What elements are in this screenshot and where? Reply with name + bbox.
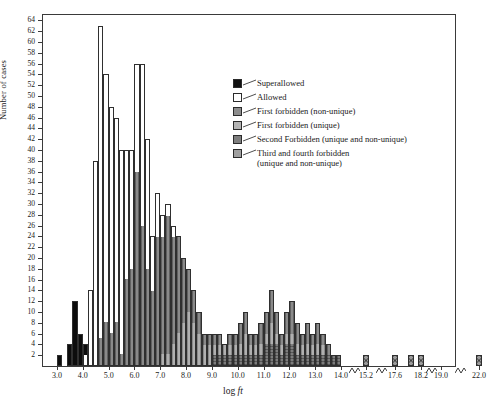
bar-segment-allowed: [110, 108, 113, 333]
bar-segment-first-uniq: [259, 344, 262, 354]
legend-swatch-second: [233, 135, 242, 144]
legend-label: Allowed: [257, 92, 287, 102]
bar-segment-first-uniq: [208, 345, 211, 365]
bar-segment-first-uniq: [223, 345, 226, 355]
bar-segment-first-nonuniq: [130, 269, 133, 365]
bar-segment-first-uniq: [177, 333, 180, 365]
bar-segment-first-nonuniq: [166, 216, 169, 355]
bar-segment-superallowed: [58, 356, 61, 365]
bar-segment-first-nonuniq: [228, 335, 231, 345]
x-axis-label-prefix: log: [223, 386, 238, 396]
bar-segment-second: [259, 355, 262, 365]
legend-label: Superallowed: [257, 78, 304, 88]
y-tick-mark: [38, 53, 42, 54]
bar-segment-first-nonuniq: [156, 237, 159, 365]
y-tick-mark: [38, 226, 42, 227]
bar-segment-allowed: [166, 205, 169, 216]
legend-swatch-first-nonuniq: [233, 107, 242, 116]
bar-segment-first-nonuniq: [285, 313, 288, 334]
bar-segment-first-uniq: [218, 345, 221, 355]
bar-segment-first-nonuniq: [203, 335, 206, 345]
y-tick-label: 6: [13, 330, 35, 337]
legend-label-line2: (unique and non-unique): [257, 158, 342, 168]
y-tick-label: 64: [13, 16, 35, 23]
y-tick-label: 58: [13, 49, 35, 56]
legend-item: Allowed: [233, 92, 461, 106]
bar-segment-first-nonuniq: [192, 291, 195, 323]
y-tick-mark: [38, 290, 42, 291]
bar-segment-first-nonuniq: [161, 237, 164, 354]
y-tick-label: 46: [13, 114, 35, 121]
y-tick-label: 54: [13, 70, 35, 77]
bar-segment-second: [301, 355, 304, 365]
bar-segment-second: [285, 344, 288, 365]
bar-segment-first-uniq: [280, 345, 283, 355]
x-tick-mark: [264, 366, 265, 370]
y-tick-mark: [38, 269, 42, 270]
legend-swatch-superallowed: [233, 79, 242, 88]
y-tick-label: 4: [13, 340, 35, 347]
x-tick-mark: [479, 366, 480, 370]
x-tick-label: 19.0: [424, 371, 458, 380]
y-axis-label: Number of cases: [0, 0, 8, 120]
bar-segment-second: [275, 344, 278, 365]
bar-segment-first-uniq: [197, 334, 200, 365]
x-tick-label: 22.0: [462, 371, 491, 380]
bar-segment-allowed: [94, 162, 97, 365]
x-axis-label: log ft: [0, 386, 466, 396]
bar-segment-allowed: [84, 355, 87, 365]
bar-segment-first-nonuniq: [301, 335, 304, 345]
legend-label: Third and fourth forbidden: [257, 148, 349, 158]
bar-segment-first-uniq: [270, 323, 273, 344]
x-tick-mark: [366, 366, 367, 370]
y-tick-mark: [38, 334, 42, 335]
y-tick-label: 60: [13, 38, 35, 45]
y-tick-mark: [38, 96, 42, 97]
y-tick-label: 44: [13, 124, 35, 131]
bar-segment-first-nonuniq: [311, 335, 314, 345]
axis-break-mark: [376, 360, 387, 367]
bar-segment-allowed: [141, 65, 144, 226]
bar-segment-second: [270, 344, 273, 365]
y-tick-label: 2: [13, 351, 35, 358]
bar-segment-first-nonuniq: [208, 335, 211, 345]
bar-segment-first-nonuniq: [270, 291, 273, 323]
x-tick-mark: [160, 366, 161, 370]
bar-segment-first-nonuniq: [115, 322, 118, 365]
axis-break-mark: [349, 360, 360, 367]
bar-segment-first-uniq: [161, 354, 164, 365]
legend-leader-line: [242, 79, 258, 88]
bar-segment-first-uniq: [244, 334, 247, 355]
legend-leader-line: [242, 93, 258, 102]
y-tick-mark: [38, 31, 42, 32]
bar-segment-second: [321, 355, 324, 365]
bar-segment-allowed: [130, 151, 133, 269]
bar-segment-first-nonuniq: [249, 335, 252, 345]
histogram-bar: [57, 355, 62, 366]
bar-segment-allowed: [135, 65, 138, 172]
bar-segment-first-uniq: [290, 334, 293, 344]
legend-item: Superallowed: [233, 78, 461, 92]
bar-segment-first-uniq: [239, 344, 242, 354]
bar-segment-second: [296, 355, 299, 365]
legend-swatch-allowed: [233, 93, 242, 102]
bar-segment-superallowed: [79, 335, 82, 365]
legend-item: First forbidden (non-unique): [233, 106, 461, 120]
y-tick-label: 36: [13, 168, 35, 175]
x-tick-mark: [315, 366, 316, 370]
bar-segment-first-nonuniq: [110, 333, 113, 365]
x-tick-mark: [134, 366, 135, 370]
bar-segment-allowed: [151, 237, 154, 290]
legend-item: Third and fourth forbidden(unique and no…: [233, 148, 461, 170]
bar-segment-first-nonuniq: [234, 335, 237, 345]
bar-segment-first-uniq: [249, 345, 252, 355]
y-tick-mark: [38, 107, 42, 108]
bar-segment-first-uniq: [301, 345, 304, 355]
bar-segment-first-nonuniq: [306, 324, 309, 345]
y-tick-label: 24: [13, 232, 35, 239]
bar-segment-allowed: [125, 151, 128, 279]
bar-segment-first-nonuniq: [316, 324, 319, 345]
bar-segment-third: [364, 356, 367, 365]
x-tick-mark: [395, 366, 396, 370]
